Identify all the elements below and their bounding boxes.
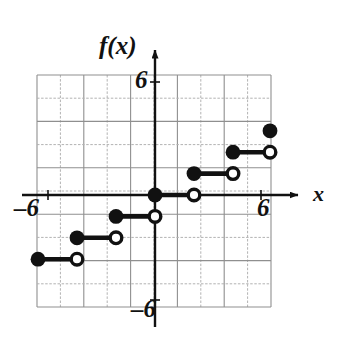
step-function-figure: f(x) x 6 –6 –6 6 [0, 0, 340, 363]
y-axis-tick-label-negative: –6 [131, 296, 156, 321]
x-axis-tick-label-positive: 6 [257, 195, 270, 220]
open-dot [110, 232, 122, 244]
open-dot [188, 189, 200, 201]
open-dot [71, 253, 83, 265]
closed-dot [31, 252, 46, 267]
closed-dot [263, 123, 278, 138]
open-dot [264, 146, 276, 158]
x-axis-tick-label-negative: –6 [14, 195, 39, 220]
graph-canvas [0, 0, 340, 363]
closed-dot [226, 145, 241, 160]
closed-dot [148, 188, 163, 203]
open-endpoints [71, 146, 276, 265]
closed-dot [70, 230, 85, 245]
open-dot [227, 168, 239, 180]
y-axis-label: f(x) [99, 33, 136, 58]
open-dot [149, 211, 161, 223]
closed-dot [109, 209, 124, 224]
x-axis-label: x [313, 183, 324, 205]
closed-dot [187, 166, 202, 181]
y-axis-tick-label-positive: 6 [135, 67, 148, 92]
